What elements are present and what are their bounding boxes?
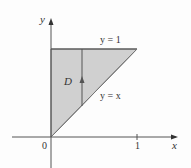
x-tick-label-1: 1: [135, 140, 140, 151]
diagram-canvas: y x 0 1 D y = 1 y = x: [0, 0, 191, 168]
y-axis-label: y: [39, 13, 45, 25]
curve-label-y-equals-x: y = x: [100, 90, 121, 101]
x-axis-label: x: [171, 139, 177, 151]
origin-label: 0: [42, 140, 47, 151]
y-axis-arrow-icon: [49, 18, 54, 25]
region-diagram: y x 0 1 D y = 1 y = x: [0, 0, 191, 168]
region-label-d: D: [63, 75, 72, 87]
curve-label-y-equals-1: y = 1: [100, 34, 121, 45]
